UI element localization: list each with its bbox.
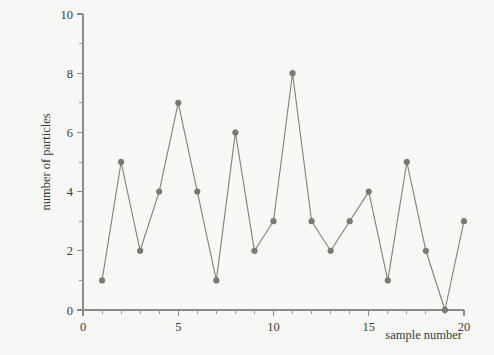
y-tick-label: 0 (67, 304, 73, 318)
y-tick-label: 10 (61, 8, 74, 22)
data-point-marker (347, 218, 353, 224)
particle-count-line-chart: 0246810 05101520 sample number number of… (0, 0, 494, 355)
data-point-marker (137, 248, 143, 254)
chart-background (0, 0, 494, 355)
y-tick-label: 4 (67, 185, 74, 199)
data-point-marker (156, 189, 162, 195)
data-point-marker (290, 70, 296, 76)
data-point-marker (175, 100, 181, 106)
data-point-marker (233, 130, 239, 136)
data-point-marker (252, 248, 258, 254)
data-point-marker (309, 218, 315, 224)
data-point-marker (461, 218, 467, 224)
x-tick-label: 15 (363, 320, 376, 334)
y-tick-label: 2 (67, 244, 73, 258)
y-tick-label: 6 (67, 126, 73, 140)
data-point-marker (366, 189, 372, 195)
data-point-marker (194, 189, 200, 195)
data-point-marker (328, 248, 334, 254)
x-tick-label: 0 (80, 320, 86, 334)
data-point-marker (442, 307, 448, 313)
y-tick-label: 8 (67, 67, 73, 81)
data-point-marker (385, 278, 391, 284)
y-axis-title: number of particles (39, 113, 53, 210)
data-point-marker (213, 278, 219, 284)
x-tick-label: 10 (267, 320, 280, 334)
chart-figure: 0246810 05101520 sample number number of… (0, 0, 494, 355)
x-axis-title: sample number (385, 328, 463, 342)
data-point-marker (99, 278, 105, 284)
data-point-marker (423, 248, 429, 254)
data-point-marker (404, 159, 410, 165)
data-point-marker (118, 159, 124, 165)
data-point-marker (271, 218, 277, 224)
x-tick-label: 5 (175, 320, 181, 334)
